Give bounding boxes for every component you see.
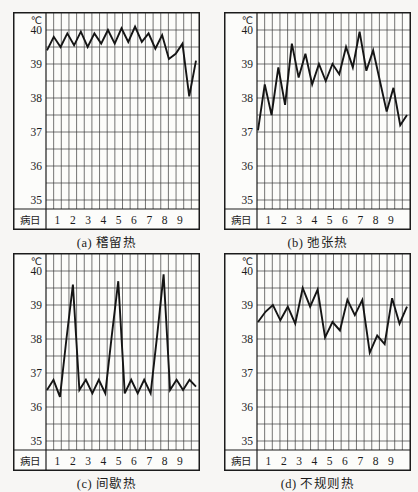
charts-grid: ℃403938373635病日123456789 (a) 稽留热 ℃403938… <box>13 12 405 492</box>
chart-remittent-fever: ℃403938373635病日123456789 (b) 弛张热 <box>224 12 411 251</box>
x-tick-label: 3 <box>296 455 302 467</box>
fever-chart-svg-a: ℃403938373635病日123456789 <box>13 12 200 230</box>
y-tick-label: 38 <box>242 333 254 345</box>
x-tick-label: 3 <box>85 214 91 226</box>
x-tick-label: 6 <box>342 214 348 226</box>
x-tick-label: 3 <box>85 455 91 467</box>
fever-chart-svg-c: ℃403938373635病日123456789 <box>13 253 200 471</box>
y-tick-label: 37 <box>31 126 43 138</box>
chart-continued-fever: ℃403938373635病日123456789 (a) 稽留热 <box>13 12 200 251</box>
y-tick-label: 37 <box>242 367 254 379</box>
x-axis-title: 病日 <box>20 455 40 467</box>
x-tick-label: 9 <box>177 214 183 226</box>
y-tick-label: 39 <box>242 58 254 70</box>
x-tick-label: 6 <box>131 455 137 467</box>
x-axis-title: 病日 <box>231 214 251 226</box>
fever-chart-svg-d: ℃403938373635病日123456789 <box>224 253 411 471</box>
x-tick-label: 5 <box>327 214 333 226</box>
y-tick-label: 35 <box>242 435 254 447</box>
x-tick-label: 4 <box>101 214 107 226</box>
chart-intermittent-fever-caption: (c) 间歇热 <box>13 471 200 492</box>
chart-irregular-fever: ℃403938373635病日123456789 (d) 不规则热 <box>224 253 411 492</box>
y-tick-label: 40 <box>31 265 43 277</box>
chart-remittent-fever-plot: ℃403938373635病日123456789 <box>224 12 411 230</box>
y-tick-label: 38 <box>242 92 254 104</box>
x-tick-label: 6 <box>342 455 348 467</box>
x-tick-label: 1 <box>266 455 272 467</box>
x-tick-label: 8 <box>162 455 168 467</box>
fever-chart-svg-b: ℃403938373635病日123456789 <box>224 12 411 230</box>
x-tick-label: 2 <box>281 214 287 226</box>
y-tick-label: 35 <box>31 194 43 206</box>
chart-intermittent-fever: ℃403938373635病日123456789 (c) 间歇热 <box>13 253 200 492</box>
x-tick-label: 3 <box>296 214 302 226</box>
x-tick-label: 1 <box>55 214 61 226</box>
x-tick-label: 2 <box>70 214 76 226</box>
x-tick-label: 9 <box>388 214 394 226</box>
y-tick-label: 37 <box>242 126 254 138</box>
y-tick-label: 39 <box>242 299 254 311</box>
chart-remittent-fever-caption: (b) 弛张热 <box>224 230 411 251</box>
y-tick-label: 40 <box>242 265 254 277</box>
x-tick-label: 8 <box>373 455 379 467</box>
x-tick-label: 1 <box>55 455 61 467</box>
x-tick-label: 4 <box>312 455 318 467</box>
y-tick-label: 38 <box>31 92 43 104</box>
chart-irregular-fever-caption: (d) 不规则热 <box>224 471 411 492</box>
y-tick-label: 39 <box>31 299 43 311</box>
y-tick-label: 36 <box>242 160 254 172</box>
y-tick-label: 40 <box>31 24 43 36</box>
x-tick-label: 8 <box>373 214 379 226</box>
chart-continued-fever-plot: ℃403938373635病日123456789 <box>13 12 200 230</box>
x-tick-label: 6 <box>131 214 137 226</box>
y-tick-label: 37 <box>31 367 43 379</box>
y-tick-label: 40 <box>242 24 254 36</box>
x-tick-label: 9 <box>177 455 183 467</box>
x-tick-label: 5 <box>116 455 122 467</box>
x-tick-label: 7 <box>146 455 152 467</box>
chart-intermittent-fever-plot: ℃403938373635病日123456789 <box>13 253 200 471</box>
y-tick-label: 38 <box>31 333 43 345</box>
x-tick-label: 4 <box>312 214 318 226</box>
x-tick-label: 1 <box>266 214 272 226</box>
x-tick-label: 8 <box>162 214 168 226</box>
y-tick-label: 36 <box>31 160 43 172</box>
x-axis-title: 病日 <box>231 455 251 467</box>
x-tick-label: 7 <box>357 455 363 467</box>
y-tick-label: 39 <box>31 58 43 70</box>
x-tick-label: 2 <box>281 455 287 467</box>
chart-irregular-fever-plot: ℃403938373635病日123456789 <box>224 253 411 471</box>
y-tick-label: 36 <box>31 401 43 413</box>
x-tick-label: 2 <box>70 455 76 467</box>
y-tick-label: 35 <box>242 194 254 206</box>
grid-lines <box>257 254 410 450</box>
grid-lines <box>46 13 199 209</box>
x-axis-title: 病日 <box>20 214 40 226</box>
y-tick-label: 35 <box>31 435 43 447</box>
x-tick-label: 5 <box>327 455 333 467</box>
chart-continued-fever-caption: (a) 稽留热 <box>13 230 200 251</box>
x-tick-label: 4 <box>101 455 107 467</box>
x-tick-label: 7 <box>146 214 152 226</box>
x-tick-label: 5 <box>116 214 122 226</box>
x-tick-label: 9 <box>388 455 394 467</box>
y-tick-label: 36 <box>242 401 254 413</box>
x-tick-label: 7 <box>357 214 363 226</box>
